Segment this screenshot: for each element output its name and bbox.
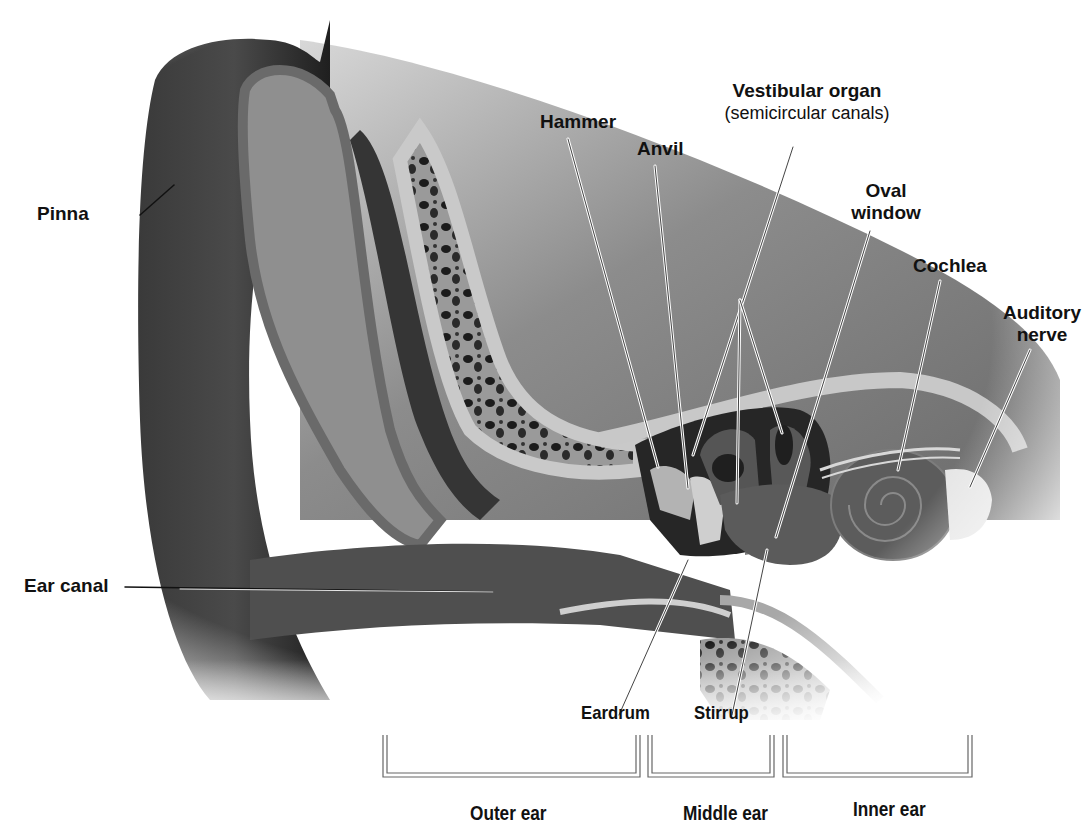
outer-ear-bracket xyxy=(383,735,640,777)
auditory-nerve-line2: nerve xyxy=(1017,324,1068,345)
label-oval-window: Oval window xyxy=(848,180,924,224)
inner-ear-bracket xyxy=(783,735,972,777)
oval-window-line2: window xyxy=(851,202,921,223)
label-ear-canal: Ear canal xyxy=(24,575,109,597)
region-label-inner-ear: Inner ear xyxy=(853,798,926,821)
label-stirrup: Stirrup xyxy=(694,702,749,724)
vestibular-title: Vestibular organ xyxy=(733,80,882,101)
label-anvil: Anvil xyxy=(637,138,683,160)
region-label-outer-ear: Outer ear xyxy=(470,802,546,825)
label-cochlea: Cochlea xyxy=(913,255,987,277)
label-eardrum: Eardrum xyxy=(581,702,650,724)
region-brackets xyxy=(383,735,972,777)
region-label-middle-ear: Middle ear xyxy=(683,802,768,825)
oval-window-line1: Oval xyxy=(865,180,906,201)
label-pinna: Pinna xyxy=(37,203,89,225)
label-auditory-nerve: Auditory nerve xyxy=(1002,302,1082,346)
ear-anatomy-diagram: Pinna Hammer Anvil Vestibular organ (sem… xyxy=(0,0,1084,840)
label-vestibular-organ: Vestibular organ (semicircular canals) xyxy=(712,80,902,124)
vestibular-subtitle: (semicircular canals) xyxy=(712,102,902,124)
label-hammer: Hammer xyxy=(540,111,616,133)
auditory-nerve-line1: Auditory xyxy=(1003,302,1081,323)
middle-ear-bracket xyxy=(648,735,774,777)
